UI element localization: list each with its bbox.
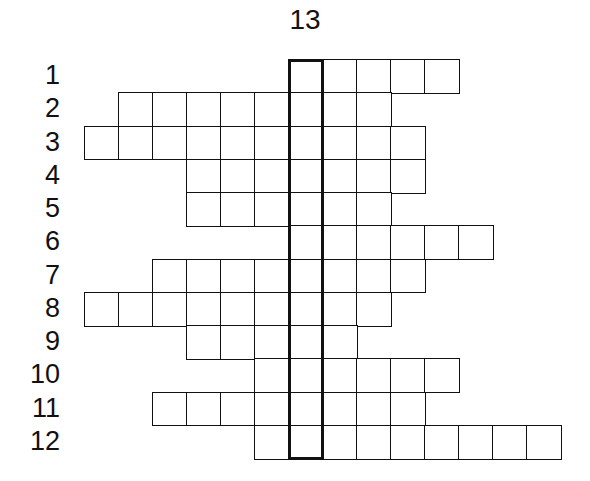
- crossword-cell[interactable]: [390, 159, 426, 194]
- crossword-cell[interactable]: [220, 325, 256, 360]
- crossword-cell[interactable]: [390, 59, 426, 94]
- row-number: 10: [0, 358, 60, 391]
- crossword-cell[interactable]: [186, 92, 222, 127]
- crossword-cell[interactable]: [288, 126, 324, 161]
- crossword-cell[interactable]: [356, 92, 392, 127]
- crossword-cell[interactable]: [322, 392, 358, 427]
- crossword-cell[interactable]: [118, 292, 154, 327]
- vertical-clue-number: 13: [280, 4, 330, 36]
- crossword-cell[interactable]: [186, 126, 222, 161]
- crossword-cell[interactable]: [186, 392, 222, 427]
- crossword-cell[interactable]: [356, 358, 392, 393]
- crossword-cell[interactable]: [220, 292, 256, 327]
- crossword-cell[interactable]: [220, 126, 256, 161]
- crossword-cell[interactable]: [356, 292, 392, 327]
- crossword-cell[interactable]: [288, 59, 324, 94]
- crossword-cell[interactable]: [288, 392, 324, 427]
- crossword-cell[interactable]: [288, 325, 324, 360]
- crossword-cell[interactable]: [390, 358, 426, 393]
- crossword-cell[interactable]: [288, 259, 324, 294]
- crossword-cell[interactable]: [356, 225, 392, 260]
- crossword-cell[interactable]: [152, 392, 188, 427]
- crossword-cell[interactable]: [118, 126, 154, 161]
- crossword-cell[interactable]: [220, 92, 256, 127]
- crossword-cell[interactable]: [322, 92, 358, 127]
- crossword-cell[interactable]: [390, 225, 426, 260]
- crossword-cell[interactable]: [322, 325, 358, 360]
- crossword-cell[interactable]: [322, 159, 358, 194]
- crossword-cell[interactable]: [288, 358, 324, 393]
- crossword-cell[interactable]: [84, 292, 120, 327]
- row-number: 2: [0, 92, 60, 125]
- crossword-cell[interactable]: [322, 259, 358, 294]
- row-number: 7: [0, 259, 60, 292]
- row-number: 6: [0, 225, 60, 258]
- crossword-cell[interactable]: [186, 159, 222, 194]
- crossword-cell[interactable]: [186, 325, 222, 360]
- crossword-cell[interactable]: [390, 126, 426, 161]
- row-number: 4: [0, 159, 60, 192]
- crossword-cell[interactable]: [458, 425, 494, 460]
- crossword-cell[interactable]: [390, 259, 426, 294]
- crossword-cell[interactable]: [526, 425, 562, 460]
- crossword-cell[interactable]: [322, 358, 358, 393]
- crossword-cell[interactable]: [220, 159, 256, 194]
- crossword-cell[interactable]: [84, 126, 120, 161]
- crossword-cell[interactable]: [254, 192, 290, 227]
- crossword-cell[interactable]: [220, 259, 256, 294]
- crossword-cell[interactable]: [322, 59, 358, 94]
- crossword-cell[interactable]: [356, 192, 392, 227]
- crossword-cell[interactable]: [220, 192, 256, 227]
- row-number: 5: [0, 192, 60, 225]
- crossword-cell[interactable]: [356, 425, 392, 460]
- row-number: 12: [0, 425, 60, 458]
- crossword-cell[interactable]: [254, 392, 290, 427]
- crossword-cell[interactable]: [254, 259, 290, 294]
- crossword-cell[interactable]: [254, 159, 290, 194]
- row-number: 9: [0, 325, 60, 358]
- crossword-cell[interactable]: [492, 425, 528, 460]
- crossword-cell[interactable]: [288, 159, 324, 194]
- crossword-cell[interactable]: [254, 425, 290, 460]
- crossword-cell[interactable]: [356, 126, 392, 161]
- crossword-cell[interactable]: [152, 92, 188, 127]
- crossword-cell[interactable]: [322, 425, 358, 460]
- crossword-cell[interactable]: [458, 225, 494, 260]
- crossword-cell[interactable]: [152, 259, 188, 294]
- crossword-cell[interactable]: [390, 392, 426, 427]
- crossword-cell[interactable]: [288, 425, 324, 460]
- crossword-cell[interactable]: [424, 425, 460, 460]
- crossword-cell[interactable]: [254, 126, 290, 161]
- crossword-cell[interactable]: [424, 358, 460, 393]
- crossword-cell[interactable]: [322, 126, 358, 161]
- crossword-cell[interactable]: [390, 425, 426, 460]
- crossword-cell[interactable]: [356, 259, 392, 294]
- crossword-cell[interactable]: [220, 392, 256, 427]
- crossword-cell[interactable]: [186, 292, 222, 327]
- row-number: 3: [0, 126, 60, 159]
- crossword-cell[interactable]: [254, 92, 290, 127]
- crossword-cell[interactable]: [424, 225, 460, 260]
- crossword-cell[interactable]: [356, 59, 392, 94]
- row-number: 1: [0, 59, 60, 92]
- crossword-cell[interactable]: [356, 159, 392, 194]
- crossword-cell[interactable]: [322, 192, 358, 227]
- row-number: 11: [0, 392, 60, 425]
- crossword-cell[interactable]: [254, 292, 290, 327]
- crossword-cell[interactable]: [254, 325, 290, 360]
- crossword-cell[interactable]: [186, 192, 222, 227]
- crossword-cell[interactable]: [288, 225, 324, 260]
- crossword-cell[interactable]: [322, 292, 358, 327]
- crossword-cell[interactable]: [152, 126, 188, 161]
- crossword-cell[interactable]: [322, 225, 358, 260]
- crossword-cell[interactable]: [356, 392, 392, 427]
- crossword-cell[interactable]: [288, 292, 324, 327]
- crossword-cell[interactable]: [186, 259, 222, 294]
- row-number: 8: [0, 292, 60, 325]
- crossword-cell[interactable]: [118, 92, 154, 127]
- crossword-cell[interactable]: [254, 358, 290, 393]
- crossword-cell[interactable]: [288, 192, 324, 227]
- crossword-cell[interactable]: [424, 59, 460, 94]
- crossword-cell[interactable]: [152, 292, 188, 327]
- crossword-cell[interactable]: [288, 92, 324, 127]
